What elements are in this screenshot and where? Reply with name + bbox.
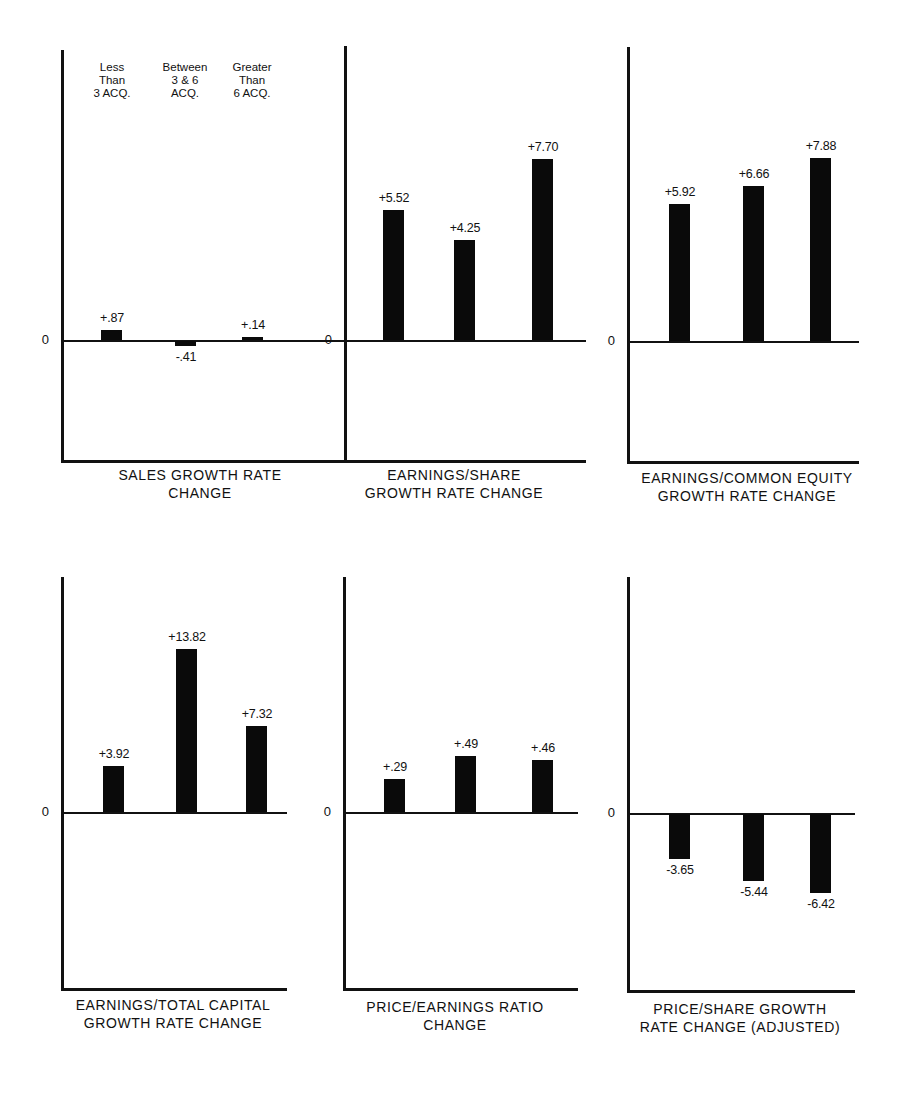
panel-title: SALES GROWTH RATE CHANGE xyxy=(60,466,340,502)
y-axis xyxy=(343,577,346,991)
category-legend: Greater Than 6 ACQ. xyxy=(222,61,282,100)
bar xyxy=(384,779,405,812)
bar-value-label: +13.82 xyxy=(157,630,217,644)
panel-title: PRICE/SHARE GROWTH RATE CHANGE (ADJUSTED… xyxy=(610,1000,870,1036)
bar xyxy=(383,210,404,340)
bar-value-label: +.14 xyxy=(223,318,283,332)
zero-tick-label: 0 xyxy=(595,805,615,820)
zero-tick-label: 0 xyxy=(312,332,332,347)
bar xyxy=(743,814,764,881)
panel-title: EARNINGS/COMMON EQUITY GROWTH RATE CHANG… xyxy=(617,469,877,505)
zero-tick-label: 0 xyxy=(595,333,615,348)
bar xyxy=(175,341,196,346)
bar-value-label: +7.32 xyxy=(227,707,287,721)
zero-line xyxy=(61,812,287,814)
bar-value-label: +6.66 xyxy=(724,167,784,181)
category-legend: Between 3 & 6 ACQ. xyxy=(155,61,215,100)
bar xyxy=(454,240,475,340)
bar-value-label: -5.44 xyxy=(724,885,784,899)
y-axis xyxy=(61,577,64,991)
bar xyxy=(101,330,122,340)
bar-value-label: +.87 xyxy=(82,311,142,325)
bar xyxy=(743,186,764,341)
bar xyxy=(810,158,831,341)
bar xyxy=(176,649,197,812)
zero-tick-label: 0 xyxy=(29,804,49,819)
zero-line xyxy=(627,341,859,343)
x-axis-bottom xyxy=(627,461,859,464)
x-axis-bottom xyxy=(344,460,555,463)
bar xyxy=(669,204,690,341)
bar-value-label: +7.70 xyxy=(513,140,573,154)
zero-tick-label: 0 xyxy=(29,332,49,347)
bar-value-label: +5.52 xyxy=(364,191,424,205)
bar-value-label: +.46 xyxy=(513,741,573,755)
bar-value-label: -.41 xyxy=(156,350,216,364)
zero-line xyxy=(344,340,555,342)
bar-value-label: +.29 xyxy=(365,760,425,774)
x-axis-bottom xyxy=(627,990,855,993)
bar xyxy=(810,814,831,893)
bar-value-label: +3.92 xyxy=(84,747,144,761)
zero-tick-label: 0 xyxy=(311,804,331,819)
y-axis xyxy=(627,47,630,464)
bar xyxy=(455,756,476,812)
y-axis xyxy=(627,577,630,993)
bar xyxy=(242,337,263,340)
bar-value-label: +7.88 xyxy=(791,139,851,153)
y-axis xyxy=(61,50,64,463)
bar-value-label: -6.42 xyxy=(791,897,851,911)
bar-value-label: +.49 xyxy=(436,737,496,751)
bar-value-label: +5.92 xyxy=(650,185,710,199)
bar xyxy=(246,726,267,812)
x-axis-bottom xyxy=(343,988,578,991)
panel-title: EARNINGS/SHARE GROWTH RATE CHANGE xyxy=(338,466,570,502)
bar-value-label: -3.65 xyxy=(650,863,710,877)
bar xyxy=(532,159,553,340)
panel-title: PRICE/EARNINGS RATIO CHANGE xyxy=(330,998,580,1034)
bar xyxy=(532,760,553,812)
zero-line xyxy=(343,812,578,814)
bar xyxy=(669,814,690,859)
bar xyxy=(103,766,124,812)
panel-title: EARNINGS/TOTAL CAPITAL GROWTH RATE CHANG… xyxy=(48,996,298,1032)
x-axis-bottom xyxy=(61,988,287,991)
y-axis xyxy=(344,46,347,463)
category-legend: Less Than 3 ACQ. xyxy=(82,61,142,100)
bar-value-label: +4.25 xyxy=(435,221,495,235)
